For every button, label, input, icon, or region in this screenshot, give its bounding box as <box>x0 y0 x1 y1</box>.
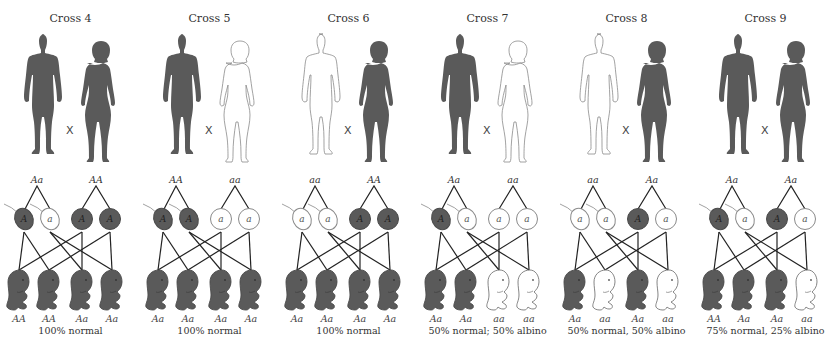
offspring-normal <box>624 268 652 316</box>
offspring-genotype: Aa <box>421 313 451 324</box>
offspring-normal <box>700 268 728 316</box>
sperm-gamete-A: A <box>176 205 202 233</box>
sperm-gamete-A: A <box>706 205 732 233</box>
offspring-albino <box>654 268 682 316</box>
egg-gamete-a: a <box>211 209 232 230</box>
svg-text:A: A <box>106 214 114 224</box>
svg-text:A: A <box>159 214 167 224</box>
offspring-genotype: Aa <box>143 313 173 324</box>
normal-embryo-icon <box>68 268 96 312</box>
offspring-genotype: AA <box>4 313 34 324</box>
normal-embryo-icon <box>422 268 450 312</box>
cross-panel-5: Cross 5 X AA aa AAaa Aa Aa Aa Aa 100% no… <box>141 0 278 354</box>
normal-embryo-icon <box>561 268 589 312</box>
offspring-genotype: Aa <box>236 313 266 324</box>
cross-summary: 75% normal, 25% albino <box>677 325 836 336</box>
svg-text:a: a <box>246 214 251 224</box>
offspring-normal <box>730 268 758 316</box>
svg-text:a: a <box>496 214 501 224</box>
normal-embryo-icon <box>624 268 652 312</box>
svg-text:a: a <box>299 214 304 224</box>
egg-gamete-a: a <box>795 209 816 230</box>
egg-gamete-A: A <box>767 209 788 230</box>
svg-text:A: A <box>715 214 723 224</box>
svg-text:a: a <box>218 214 223 224</box>
albino-embryo-icon <box>591 268 619 312</box>
offspring-normal <box>376 268 404 316</box>
normal-embryo-icon <box>376 268 404 312</box>
offspring-genotype: AA <box>699 313 729 324</box>
sperm-gamete-a: a <box>567 205 593 233</box>
offspring-genotype: Aa <box>282 313 312 324</box>
normal-embryo-icon <box>452 268 480 312</box>
offspring-genotype: aa <box>590 313 620 324</box>
normal-embryo-icon <box>700 268 728 312</box>
offspring-genotype: Aa <box>623 313 653 324</box>
egg-gamete-a: a <box>517 209 538 230</box>
egg-gamete-A: A <box>350 209 371 230</box>
offspring-normal <box>207 268 235 316</box>
offspring-genotype: Aa <box>312 313 342 324</box>
offspring-genotype: Aa <box>451 313 481 324</box>
offspring-normal <box>98 268 126 316</box>
offspring-genotype: Aa <box>67 313 97 324</box>
offspring-albino <box>515 268 543 316</box>
sperm-gamete-A: A <box>11 205 37 233</box>
albino-embryo-icon <box>654 268 682 312</box>
normal-embryo-icon <box>207 268 235 312</box>
offspring-normal <box>452 268 480 316</box>
svg-text:A: A <box>384 214 392 224</box>
normal-embryo-icon <box>313 268 341 312</box>
offspring-genotype: aa <box>653 313 683 324</box>
sperm-gamete-a: a <box>454 205 480 233</box>
offspring-albino <box>485 268 513 316</box>
normal-embryo-icon <box>174 268 202 312</box>
offspring-genotype: aa <box>514 313 544 324</box>
offspring-normal <box>5 268 33 316</box>
egg-gamete-a: a <box>656 209 677 230</box>
offspring-genotype: Aa <box>97 313 127 324</box>
offspring-genotype: Aa <box>560 313 590 324</box>
svg-text:A: A <box>185 214 193 224</box>
offspring-genotype: aa <box>484 313 514 324</box>
cross-panel-4: Cross 4 X Aa AA AaAA AA AA Aa Aa 100% no… <box>2 0 139 354</box>
cross-panel-6: Cross 6 X aa AA aaAA Aa Aa Aa Aa 100% no… <box>280 0 417 354</box>
sperm-gamete-a: a <box>289 205 315 233</box>
svg-text:A: A <box>356 214 364 224</box>
offspring-genotype: Aa <box>173 313 203 324</box>
cross-panel-7: Cross 7 X Aa aa Aaaa Aa Aa aa aa 50% nor… <box>419 0 556 354</box>
offspring-albino <box>793 268 821 316</box>
svg-text:A: A <box>634 214 642 224</box>
svg-text:a: a <box>742 214 747 224</box>
albino-embryo-icon <box>793 268 821 312</box>
sperm-gamete-a: a <box>37 205 63 233</box>
normal-embryo-icon <box>283 268 311 312</box>
albino-embryo-icon <box>485 268 513 312</box>
offspring-normal <box>174 268 202 316</box>
sperm-gamete-a: a <box>315 205 341 233</box>
offspring-genotype: aa <box>792 313 822 324</box>
egg-gamete-a: a <box>489 209 510 230</box>
sperm-gamete-A: A <box>428 205 454 233</box>
offspring-normal <box>763 268 791 316</box>
egg-gamete-A: A <box>628 209 649 230</box>
svg-text:a: a <box>47 214 52 224</box>
svg-text:A: A <box>773 214 781 224</box>
offspring-genotype: Aa <box>375 313 405 324</box>
offspring-genotype: Aa <box>762 313 792 324</box>
svg-text:a: a <box>802 214 807 224</box>
normal-embryo-icon <box>5 268 33 312</box>
normal-embryo-icon <box>763 268 791 312</box>
offspring-normal <box>144 268 172 316</box>
offspring-genotype: Aa <box>345 313 375 324</box>
svg-text:a: a <box>524 214 529 224</box>
egg-gamete-a: a <box>239 209 260 230</box>
offspring-genotype: AA <box>34 313 64 324</box>
offspring-normal <box>561 268 589 316</box>
svg-text:A: A <box>437 214 445 224</box>
svg-text:A: A <box>78 214 86 224</box>
offspring-normal <box>35 268 63 316</box>
sperm-gamete-a: a <box>732 205 758 233</box>
albino-embryo-icon <box>515 268 543 312</box>
svg-text:A: A <box>20 214 28 224</box>
